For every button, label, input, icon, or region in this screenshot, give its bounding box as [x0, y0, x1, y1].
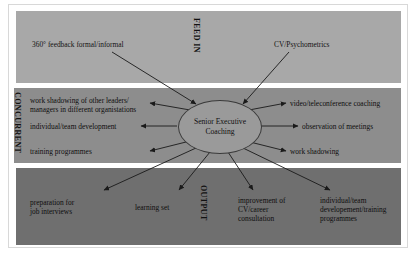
node-work-shadowing[interactable]: work shadowing	[290, 147, 339, 156]
node-observation-of-meetings[interactable]: observation of meetings	[302, 122, 373, 131]
centre-node-senior-executive-coaching[interactable]: Senior Executive Coaching	[178, 100, 262, 154]
node-video-teleconference-coaching[interactable]: video/teleconference coaching	[290, 99, 380, 108]
node-preparation-for-job-interviews[interactable]: preparation for job interviews	[30, 198, 74, 216]
band-label-concurrent: CONCURRENT	[13, 92, 22, 153]
node-training-programmes[interactable]: training programmes	[30, 147, 92, 156]
band-label-output: OUTPUT	[199, 185, 208, 221]
diagram-canvas: FEED IN CONCURRENT OUTPUT	[0, 0, 417, 255]
node-feed-cv-psychometrics[interactable]: CV/Psychometrics	[274, 40, 329, 49]
centre-node-label: Senior Executive Coaching	[179, 117, 261, 137]
node-feed-360-feedback[interactable]: 360° feedback formal/informal	[32, 40, 124, 49]
node-individual-team-development-training[interactable]: individual/team developement/training pr…	[320, 196, 387, 224]
node-learning-set[interactable]: learning set	[135, 203, 169, 212]
node-individual-team-development[interactable]: individual/team development	[30, 122, 116, 131]
node-work-shadowing-other-leaders[interactable]: work shadowing of other leaders/ manager…	[30, 96, 136, 114]
node-improvement-cv-career-consultation[interactable]: improvement of CV/career consultation	[238, 196, 285, 224]
band-label-feed-in: FEED IN	[192, 18, 201, 53]
